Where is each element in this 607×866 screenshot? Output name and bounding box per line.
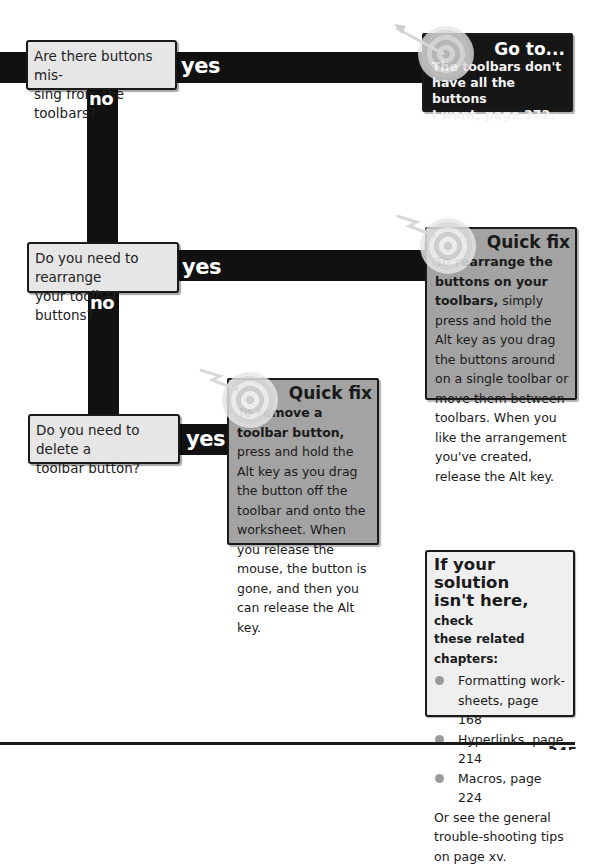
related-footer: Or see the general trouble-shooting tips… — [434, 808, 566, 866]
question-line: Do you need to delete a — [36, 421, 172, 459]
quickfix-text: To remove a toolbar button, press and ho… — [237, 403, 372, 637]
related-chapters-box: If your solution isn't here, check these… — [425, 550, 575, 717]
yes-label-3: yes — [186, 428, 225, 450]
related-heading-bold: isn't here, — [434, 591, 528, 610]
lightning-arrow-icon — [198, 366, 258, 406]
related-item[interactable]: Macros, page 224 — [434, 769, 566, 808]
quickfix-body: press and hold the Alt key as you drag t… — [237, 444, 367, 635]
footer-rule — [0, 742, 575, 745]
question-line: Are there buttons mis- — [34, 47, 169, 85]
related-subheading: these related chapters: — [434, 630, 566, 669]
no-label-2: no — [90, 292, 114, 314]
related-item-text[interactable]: Macros, page 224 — [458, 771, 542, 806]
related-item[interactable]: Formatting work-sheets, page 168 — [434, 671, 566, 730]
yes-label-2: yes — [182, 256, 221, 278]
quickfix-text: To rearrange the buttons on your toolbar… — [435, 252, 570, 486]
no-label-1: no — [89, 88, 113, 110]
question-box-missing-buttons: Are there buttons mis- sing from the too… — [26, 40, 177, 90]
question-box-delete: Do you need to delete a toolbar button? — [28, 414, 180, 464]
related-list: Formatting work-sheets, page 168 Hyperli… — [434, 671, 566, 808]
arrow-icon — [392, 22, 452, 62]
related-heading: If your solution — [434, 556, 566, 592]
page-number: 345 — [548, 745, 577, 750]
related-item[interactable]: Hyperlinks, page 214 — [434, 730, 566, 769]
bullet-icon — [435, 676, 444, 685]
yes-label-1: yes — [181, 55, 220, 77]
bullet-icon — [435, 774, 444, 783]
related-heading: isn't here, check — [434, 592, 566, 630]
related-heading-check: check — [434, 614, 473, 628]
question-line: toolbar button? — [36, 459, 172, 478]
goto-line[interactable]: I want, page 372. — [432, 107, 565, 123]
quickfix-body: simply press and hold the Alt key as you… — [435, 293, 568, 484]
question-line: Do you need to rearrange — [35, 249, 171, 287]
question-box-rearrange: Do you need to rearrange your toolbar bu… — [27, 242, 179, 293]
related-item-text[interactable]: Formatting work-sheets, page 168 — [458, 673, 565, 727]
lightning-arrow-icon — [395, 212, 455, 252]
